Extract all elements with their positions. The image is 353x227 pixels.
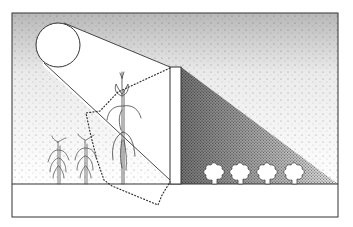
ground bbox=[12, 184, 338, 217]
wall bbox=[170, 67, 181, 184]
sun-icon bbox=[36, 23, 80, 67]
diagram-canvas bbox=[0, 0, 353, 227]
